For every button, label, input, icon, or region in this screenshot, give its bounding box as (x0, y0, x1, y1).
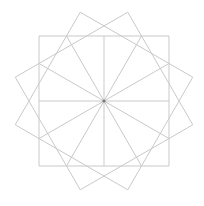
center-point (102, 99, 105, 102)
spoke-330 (104, 101, 169, 139)
diagram-svg (0, 0, 204, 206)
spoke-150 (39, 63, 104, 101)
spoke-120 (66, 36, 104, 101)
star-diagram (0, 0, 204, 206)
spoke-30 (104, 63, 169, 101)
spoke-300 (104, 101, 142, 166)
spoke-240 (66, 101, 104, 166)
spoke-60 (104, 36, 142, 101)
spoke-210 (39, 101, 104, 139)
